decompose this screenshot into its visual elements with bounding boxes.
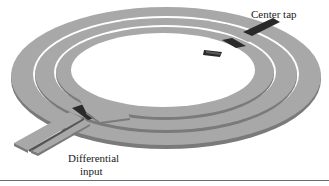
differential-input-label-line2: input xyxy=(80,165,103,177)
differential-input-label-line1: Differential xyxy=(68,152,119,164)
center-tap-label: Center tap xyxy=(251,8,297,20)
inductor-diagram: Center tap Differential input xyxy=(0,0,329,186)
inner-hole xyxy=(71,33,255,107)
inductor-drawing xyxy=(0,0,329,186)
figure-bottom-rule xyxy=(0,180,329,181)
